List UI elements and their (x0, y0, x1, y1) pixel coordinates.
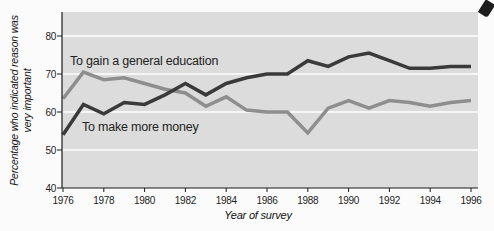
y-tick-label-70: 70 (28, 69, 56, 80)
x-tick-label-1992: 1992 (374, 195, 404, 206)
y-tick-label-80: 80 (28, 31, 56, 42)
x-axis-title: Year of survey (62, 209, 454, 221)
x-tick-label-1996: 1996 (456, 195, 486, 206)
x-tick-label-1976: 1976 (48, 195, 78, 206)
x-tick-label-1988: 1988 (293, 195, 323, 206)
x-tick-label-1984: 1984 (211, 195, 241, 206)
series-label-make-money: To make more money (82, 120, 199, 134)
x-tick-label-1990: 1990 (334, 195, 364, 206)
plot-area (62, 12, 478, 188)
y-tick-label-60: 60 (28, 107, 56, 118)
freshman-reasons-line-chart: Percentage who indicated reason was very… (0, 0, 494, 231)
x-tick-label-1982: 1982 (170, 195, 200, 206)
y-axis-title-line1: Percentage who indicated reason was (8, 1, 21, 201)
x-tick-label-1980: 1980 (130, 195, 160, 206)
x-tick-label-1978: 1978 (89, 195, 119, 206)
series-label-general-education: To gain a general education (70, 54, 218, 68)
y-tick-label-40: 40 (28, 183, 56, 194)
x-tick-label-1986: 1986 (252, 195, 282, 206)
y-tick-label-50: 50 (28, 145, 56, 156)
x-tick-label-1994: 1994 (415, 195, 445, 206)
